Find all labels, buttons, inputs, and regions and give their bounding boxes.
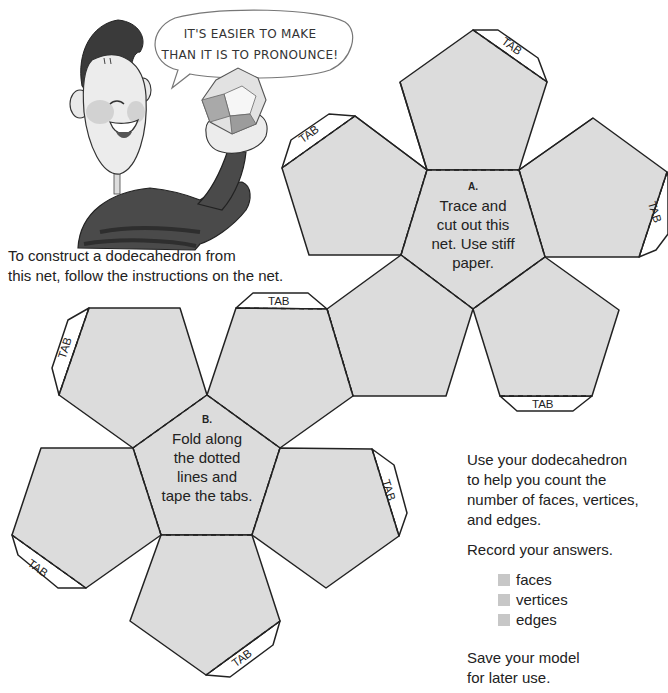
intro-line-2: this net, follow the instructions on the… (8, 266, 328, 286)
net-b-instructions: B. Fold along the dotted lines and tape … (148, 413, 266, 505)
net-a-instructions: A. Trace and cut out this net. Use stiff… (418, 180, 528, 272)
instruction-line-1: Use your dodecahedron (467, 451, 627, 468)
speech-line-2: than it is to pronounce! (150, 45, 350, 66)
answer-box[interactable] (498, 594, 510, 606)
tab-label: TAB (532, 398, 554, 410)
intro-line-1: To construct a dodecahedron from (8, 246, 328, 266)
speech-bubble-text: It's easier to make than it is to pronou… (150, 24, 350, 66)
answer-box[interactable] (498, 574, 510, 586)
save-line-2: for later use. (467, 669, 550, 686)
net-a-line-4: paper. (418, 253, 528, 272)
face-lower-right-b (252, 448, 399, 588)
net-b-line-1: Fold along (148, 429, 266, 448)
net-a-line-2: cut out this (418, 215, 528, 234)
net-b-line-3: lines and (148, 467, 266, 486)
net-b-letter: B. (148, 413, 266, 427)
count-instructions: Use your dodecahedron to help you count … (467, 450, 667, 693)
record-answers-text: Record your answers. (467, 540, 667, 560)
instruction-line-2: to help you count the (467, 471, 606, 488)
answer-label: vertices (516, 590, 568, 610)
net-a-letter: A. (418, 180, 528, 194)
answer-list: faces vertices edges (467, 570, 667, 630)
face-right (519, 118, 667, 257)
answer-label: faces (516, 570, 552, 590)
net-a-line-1: Trace and (418, 196, 528, 215)
answer-item-faces: faces (498, 570, 667, 590)
answer-item-edges: edges (498, 610, 667, 630)
save-line-1: Save your model (467, 649, 580, 666)
net-b-line-2: the dotted (148, 448, 266, 467)
answer-box[interactable] (498, 614, 510, 626)
answer-item-vertices: vertices (498, 590, 667, 610)
answer-label: edges (516, 610, 557, 630)
save-model-text: Save your model for later use. (467, 648, 667, 688)
instruction-paragraph: Use your dodecahedron to help you count … (467, 450, 667, 530)
speech-line-1: It's easier to make (150, 24, 350, 45)
instruction-line-4: and edges. (467, 511, 541, 528)
net-a-line-3: net. Use stiff (418, 234, 528, 253)
intro-text: To construct a dodecahedron from this ne… (8, 246, 328, 286)
instruction-line-3: number of faces, vertices, (467, 491, 639, 508)
net-b-line-4: tape the tabs. (148, 486, 266, 505)
tab-label: TAB (268, 295, 290, 307)
